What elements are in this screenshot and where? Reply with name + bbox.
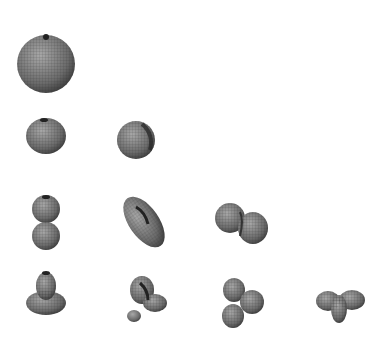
spherical-harmonics-figure (0, 0, 388, 358)
harmonic-l3-m2 (222, 278, 264, 328)
harmonic-l3-m0 (26, 271, 66, 315)
harmonic-l3-m3 (316, 290, 365, 323)
harmonic-l0-m0 (17, 34, 75, 93)
harmonic-l1-m1 (117, 121, 155, 159)
harmonic-l3-m1 (127, 276, 167, 322)
harmonic-l2-m1 (115, 190, 173, 255)
harmonic-l2-m2 (215, 203, 268, 244)
harmonic-l1-m0 (26, 118, 66, 154)
harmonic-l2-m0 (32, 195, 60, 250)
